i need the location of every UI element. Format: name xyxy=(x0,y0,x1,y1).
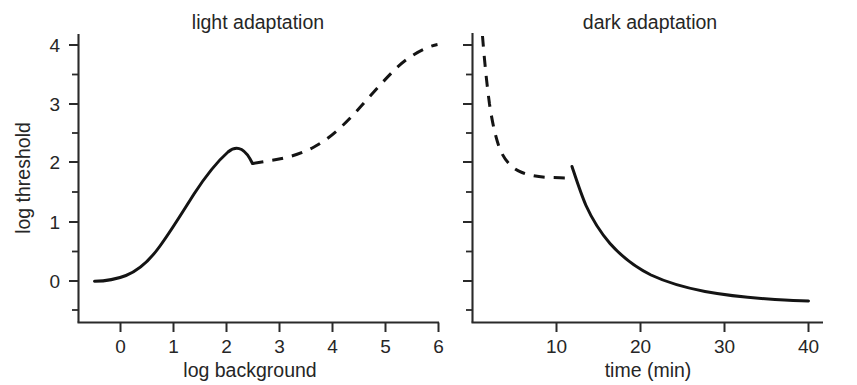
left-curve-dashed-cone-branch xyxy=(253,45,438,164)
left-curve-solid-rod-branch xyxy=(95,148,253,281)
right-curve-solid-rod-branch xyxy=(572,167,809,302)
left-y-tick-label-0: 0 xyxy=(49,271,60,292)
right-panel: dark adaptation 10 20 30 40 time (min) xyxy=(463,11,823,381)
right-x-major-ticks xyxy=(557,323,809,333)
left-panel: light adaptation 4 3 2 1 0 0 1 2 3 4 5 6… xyxy=(12,11,444,381)
left-y-tick-label-1: 1 xyxy=(49,212,60,233)
left-x-major-ticks xyxy=(121,323,439,333)
right-x-tick-label-30: 30 xyxy=(714,336,735,357)
adaptation-chart-svg: light adaptation 4 3 2 1 0 0 1 2 3 4 5 6… xyxy=(0,0,857,385)
left-panel-title: light adaptation xyxy=(192,11,324,33)
right-panel-title: dark adaptation xyxy=(583,11,717,33)
adaptation-figure: light adaptation 4 3 2 1 0 0 1 2 3 4 5 6… xyxy=(0,0,857,385)
left-x-axis-title: log background xyxy=(183,359,316,381)
left-x-tick-label-6: 6 xyxy=(433,336,444,357)
left-y-tick-label-4: 4 xyxy=(49,35,60,56)
left-x-tick-label-5: 5 xyxy=(380,336,391,357)
left-y-major-ticks xyxy=(69,45,79,281)
right-curve-dashed-cone-branch xyxy=(483,36,573,178)
right-x-tick-label-10: 10 xyxy=(546,336,567,357)
left-y-axis-title: log threshold xyxy=(12,122,34,234)
right-x-tick-label-20: 20 xyxy=(630,336,651,357)
left-x-tick-label-4: 4 xyxy=(327,336,338,357)
left-y-tick-label-3: 3 xyxy=(49,94,60,115)
right-x-axis-title: time (min) xyxy=(605,359,692,381)
left-x-tick-label-2: 2 xyxy=(221,336,232,357)
left-x-tick-label-3: 3 xyxy=(274,336,285,357)
left-y-tick-label-2: 2 xyxy=(49,152,60,173)
right-x-tick-label-40: 40 xyxy=(798,336,819,357)
left-x-tick-label-0: 0 xyxy=(115,336,126,357)
left-x-tick-label-1: 1 xyxy=(168,336,179,357)
right-y-major-ticks xyxy=(463,45,473,281)
